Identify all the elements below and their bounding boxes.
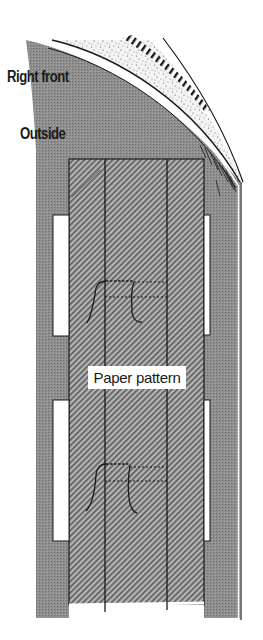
diagram-canvas xyxy=(0,0,263,640)
label-right-front: Right front xyxy=(7,68,69,86)
pattern-bottom-cover xyxy=(69,605,204,620)
label-paper-pattern: Paper pattern xyxy=(88,366,186,389)
buttonhole-strip-left-bottom xyxy=(53,400,69,541)
buttonhole-strip-right-top xyxy=(204,215,210,335)
buttonhole-strip-left-top xyxy=(53,215,69,336)
buttonhole-strip-right-bottom xyxy=(204,400,210,541)
sewing-diagram: Right front Outside Paper pattern xyxy=(0,0,263,640)
label-outside: Outside xyxy=(20,125,65,143)
